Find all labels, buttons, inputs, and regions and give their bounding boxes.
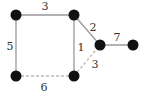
graph-node-a (11, 10, 22, 21)
edge-weight-label: 1 (78, 41, 85, 54)
edge-weight-label: 7 (114, 31, 121, 44)
graph-node-f (69, 71, 80, 82)
edge-weight-label: 2 (90, 21, 97, 34)
weighted-graph-diagram: 3512763 (0, 0, 146, 94)
edge-weight-label: 3 (92, 58, 99, 71)
graph-node-d (128, 40, 139, 51)
edge-weight-label: 6 (41, 81, 48, 94)
graph-node-c (95, 40, 106, 51)
graph-node-b (69, 10, 80, 21)
edge-weight-label: 3 (42, 0, 49, 13)
graph-node-e (11, 71, 22, 82)
edges-layer (16, 15, 133, 76)
edge-weight-label: 5 (7, 40, 14, 53)
